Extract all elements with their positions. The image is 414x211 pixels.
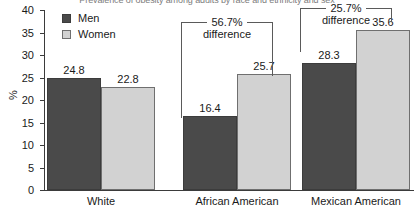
bar-value-white-women: 22.8	[101, 74, 155, 85]
y-tick-30: 30	[40, 55, 44, 56]
y-tick-label-10: 10	[22, 140, 34, 151]
chart-legend: Men Women	[62, 11, 116, 43]
legend-swatch-men-icon	[62, 14, 71, 23]
legend-swatch-women-icon	[62, 30, 71, 39]
y-tick-20: 20	[40, 100, 44, 101]
y-tick-0: 0	[40, 190, 44, 191]
y-tick-label-40: 40	[22, 5, 34, 16]
legend-item-women: Women	[62, 27, 116, 41]
y-tick-35: 35	[40, 33, 44, 34]
y-tick-label-30: 30	[22, 50, 34, 61]
bar-mexican-american-men	[302, 63, 356, 190]
legend-label-men: Men	[78, 11, 99, 25]
y-tick-5: 5	[40, 168, 44, 169]
bar-white-men	[47, 78, 101, 190]
y-axis-line	[44, 10, 45, 190]
bar-african-american-men	[183, 116, 237, 190]
difference-caption-mexican-american: difference	[300, 14, 392, 26]
bar-mexican-american-women	[356, 30, 410, 190]
x-axis-line	[44, 190, 414, 191]
obesity-prevalence-bar-chart: Prevalence of obesity among adults by ra…	[0, 0, 414, 211]
chart-title-text: Prevalence of obesity among adults by ra…	[79, 0, 334, 5]
category-label-mexican-american: Mexican American	[302, 195, 410, 207]
y-axis-title: %	[7, 90, 19, 100]
legend-label-women: Women	[78, 27, 116, 41]
difference-caption-african-american: difference	[181, 28, 273, 40]
y-tick-label-20: 20	[22, 95, 34, 106]
category-label-white: White	[47, 195, 155, 207]
y-tick-40: 40	[40, 10, 44, 11]
y-tick-15: 15	[40, 123, 44, 124]
y-tick-label-35: 35	[22, 27, 34, 38]
category-label-african-american: African American	[183, 195, 291, 207]
y-tick-label-0: 0	[28, 185, 34, 196]
y-tick-label-25: 25	[22, 72, 34, 83]
legend-item-men: Men	[62, 11, 116, 25]
bar-value-white-men: 24.8	[47, 65, 101, 76]
y-tick-label-15: 15	[22, 117, 34, 128]
bar-white-women	[101, 87, 155, 190]
y-tick-25: 25	[40, 78, 44, 79]
difference-value-african-american: 56.7%	[191, 16, 263, 28]
difference-value-mexican-american: 25.7%	[310, 2, 382, 14]
y-tick-10: 10	[40, 145, 44, 146]
y-tick-label-5: 5	[28, 162, 34, 173]
